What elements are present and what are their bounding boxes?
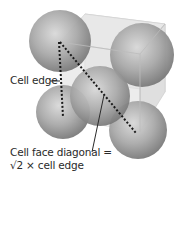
sphere-center-face	[70, 66, 130, 126]
face-diagonal-formula: √2 × cell edge	[10, 159, 84, 172]
cell-edge-label: Cell edge	[10, 74, 57, 87]
face-diagonal-label: Cell face diagonal =	[10, 146, 112, 159]
